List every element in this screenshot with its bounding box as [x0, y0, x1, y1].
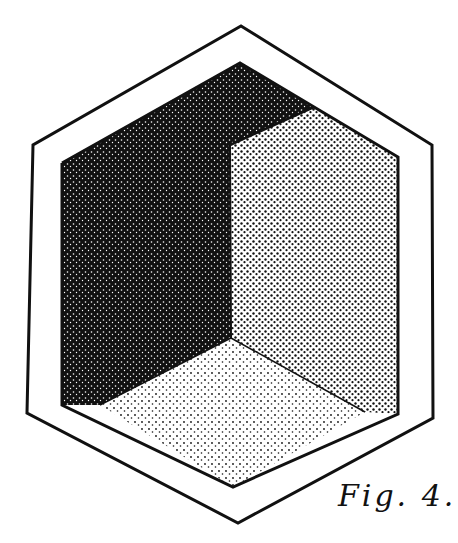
vertical-corner-edge: [230, 145, 231, 338]
figure-caption: Fig. 4.: [338, 478, 456, 513]
cube-corner-diagram: [0, 0, 458, 543]
